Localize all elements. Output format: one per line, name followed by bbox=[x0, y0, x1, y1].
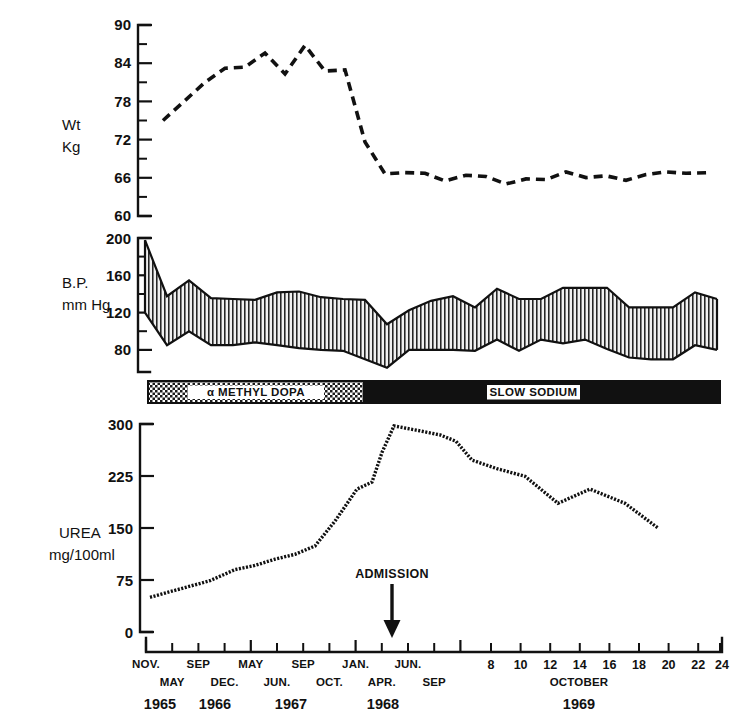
clinical-chart-figure: 90 84 78 72 66 60 Wt Kg 200 160 120 80 B… bbox=[0, 0, 733, 718]
x-label-day-16: 16 bbox=[602, 658, 616, 672]
x-label-nov: NOV. bbox=[132, 658, 160, 670]
treatment-bar-methyl-dopa: α METHYL DOPA bbox=[148, 381, 364, 403]
methyl-dopa-bar-label: α METHYL DOPA bbox=[207, 386, 305, 398]
bp-axis-title-line2: mm Hg bbox=[62, 296, 110, 313]
bp-ticklabel-200: 200 bbox=[106, 230, 131, 247]
x-label-jan-1968: JAN. bbox=[342, 658, 369, 670]
urea-ticklabel-300: 300 bbox=[108, 416, 133, 433]
x-label-sep-1966: SEP bbox=[187, 658, 211, 670]
weight-axis-title-line2: Kg bbox=[62, 138, 80, 155]
x-label-sep-1968: SEP bbox=[422, 676, 446, 688]
weight-ticklabel-66: 66 bbox=[114, 169, 131, 186]
urea-ticklabel-225: 225 bbox=[108, 468, 133, 485]
x-label-day-12: 12 bbox=[543, 658, 557, 672]
urea-ticklabel-150: 150 bbox=[108, 520, 133, 537]
admission-label: ADMISSION bbox=[355, 567, 429, 581]
weight-ticklabel-78: 78 bbox=[114, 93, 131, 110]
weight-ticklabel-84: 84 bbox=[114, 54, 131, 71]
weight-axis-title-line1: Wt bbox=[62, 116, 81, 133]
x-label-may-1966: MAY bbox=[160, 676, 185, 688]
slow-sodium-bar-label: SLOW SODIUM bbox=[489, 386, 577, 398]
urea-ticklabel-0: 0 bbox=[125, 624, 133, 641]
urea-axis-title-line1: UREA bbox=[59, 524, 101, 541]
x-year-1968: 1968 bbox=[367, 696, 399, 712]
weight-ticklabel-60: 60 bbox=[114, 207, 131, 224]
x-label-sep-1967: SEP bbox=[291, 658, 315, 670]
x-label-october: OCTOBER bbox=[550, 676, 609, 688]
x-label-may-1967: MAY bbox=[238, 658, 263, 670]
x-label-jun-1967: JUN. bbox=[263, 676, 290, 688]
x-label-jun-1968: JUN. bbox=[394, 658, 421, 670]
treatment-bar-slow-sodium: SLOW SODIUM bbox=[366, 381, 720, 403]
x-label-day-8: 8 bbox=[488, 658, 495, 672]
bp-axis-title-line1: B.P. bbox=[62, 274, 88, 291]
x-year-1967: 1967 bbox=[275, 696, 307, 712]
x-label-day-22: 22 bbox=[691, 658, 705, 672]
x-year-1969: 1969 bbox=[563, 696, 595, 712]
urea-axis-title-line2: mg/100ml bbox=[49, 546, 115, 563]
x-year-1965: 1965 bbox=[144, 696, 176, 712]
weight-ticklabel-90: 90 bbox=[114, 16, 131, 33]
x-label-day-24: 24 bbox=[715, 658, 729, 672]
bp-ticklabel-160: 160 bbox=[106, 267, 131, 284]
x-label-day-18: 18 bbox=[632, 658, 646, 672]
x-label-day-14: 14 bbox=[573, 658, 587, 672]
x-label-apr-1968: APR. bbox=[368, 676, 396, 688]
x-label-day-10: 10 bbox=[514, 658, 528, 672]
weight-ticklabel-72: 72 bbox=[114, 131, 131, 148]
bp-ticklabel-80: 80 bbox=[114, 341, 131, 358]
x-label-oct-1967: OCT. bbox=[316, 676, 343, 688]
urea-ticklabel-75: 75 bbox=[116, 572, 133, 589]
x-label-day-20: 20 bbox=[662, 658, 676, 672]
x-label-dec-1966: DEC. bbox=[210, 676, 238, 688]
x-year-1966: 1966 bbox=[199, 696, 231, 712]
chart-svg: 90 84 78 72 66 60 Wt Kg 200 160 120 80 B… bbox=[0, 0, 733, 718]
treatment-bars: α METHYL DOPA SLOW SODIUM bbox=[148, 381, 720, 403]
